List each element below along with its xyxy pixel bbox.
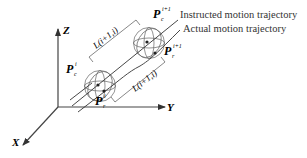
x-axis-label: X (11, 136, 20, 148)
svg-text:r: r (172, 53, 175, 59)
trajectories (70, 20, 180, 112)
svg-text:i+1: i+1 (162, 6, 171, 12)
distance-label-bottom: L(i+1,i) (129, 68, 159, 94)
point-pc-i1 (145, 40, 148, 43)
y-axis-label: Y (167, 101, 175, 113)
legend: Instructed motion trajectory Actual moti… (180, 9, 298, 34)
x-axis (23, 107, 58, 145)
svg-text:c: c (74, 71, 77, 77)
label-pc-i1: P c i+1 (153, 6, 171, 22)
instructed-trajectory (72, 20, 178, 106)
svg-text:c: c (161, 16, 164, 22)
svg-text:P: P (66, 62, 74, 76)
svg-text:P: P (153, 7, 161, 21)
legend-actual: Actual motion trajectory (183, 23, 287, 34)
point-pc-i (96, 83, 99, 86)
svg-text:P: P (164, 44, 172, 58)
svg-text:i: i (75, 61, 77, 67)
svg-text:P: P (95, 94, 103, 108)
label-pr-i1: P r i+1 (164, 43, 182, 59)
label-pc-i: P c i (66, 61, 77, 77)
z-axis-label: Z (62, 24, 70, 36)
distance-label-top: L(i+1,i) (90, 25, 120, 51)
point-pr-i1 (153, 51, 156, 54)
svg-text:i+1: i+1 (173, 43, 182, 49)
trajectory-diagram: Z Y X L(i+1,i) (0, 0, 307, 158)
svg-text:r: r (103, 103, 106, 109)
legend-instructed: Instructed motion trajectory (180, 9, 298, 20)
